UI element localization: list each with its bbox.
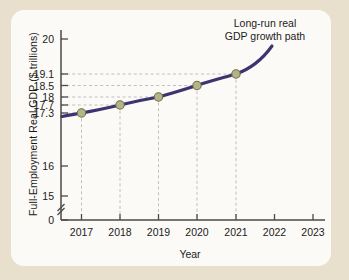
x-tick-label-2020: 2020 — [177, 226, 217, 238]
growth-path-annotation: Long-run real GDP growth path — [205, 17, 325, 43]
annotation-line-2: GDP growth path — [205, 30, 325, 43]
figure-container: 20 19.1 18.5 18 17.7 17.3 16 15 0 2017 2… — [0, 0, 349, 280]
annotation-line-1: Long-run real — [205, 17, 325, 30]
data-point-2018 — [116, 101, 124, 109]
data-point-2019 — [154, 93, 162, 101]
x-axis-title: Year — [60, 248, 320, 260]
x-tick-label-2018: 2018 — [100, 226, 140, 238]
x-tick-label-2017: 2017 — [62, 226, 102, 238]
y-axis-title: Full-Employment Real GDP ($ trillions) — [27, 29, 39, 219]
data-point-2020 — [193, 81, 201, 89]
x-tick-label-2019: 2019 — [139, 226, 179, 238]
data-point-2017 — [77, 109, 85, 117]
x-axis-ticks — [82, 214, 314, 220]
growth-path-line — [62, 46, 272, 117]
x-tick-label-2023: 2023 — [293, 226, 333, 238]
y-axis-ticks — [61, 39, 68, 220]
x-tick-label-2022: 2022 — [255, 226, 295, 238]
x-tick-label-2021: 2021 — [216, 226, 256, 238]
data-point-2021 — [232, 70, 240, 78]
